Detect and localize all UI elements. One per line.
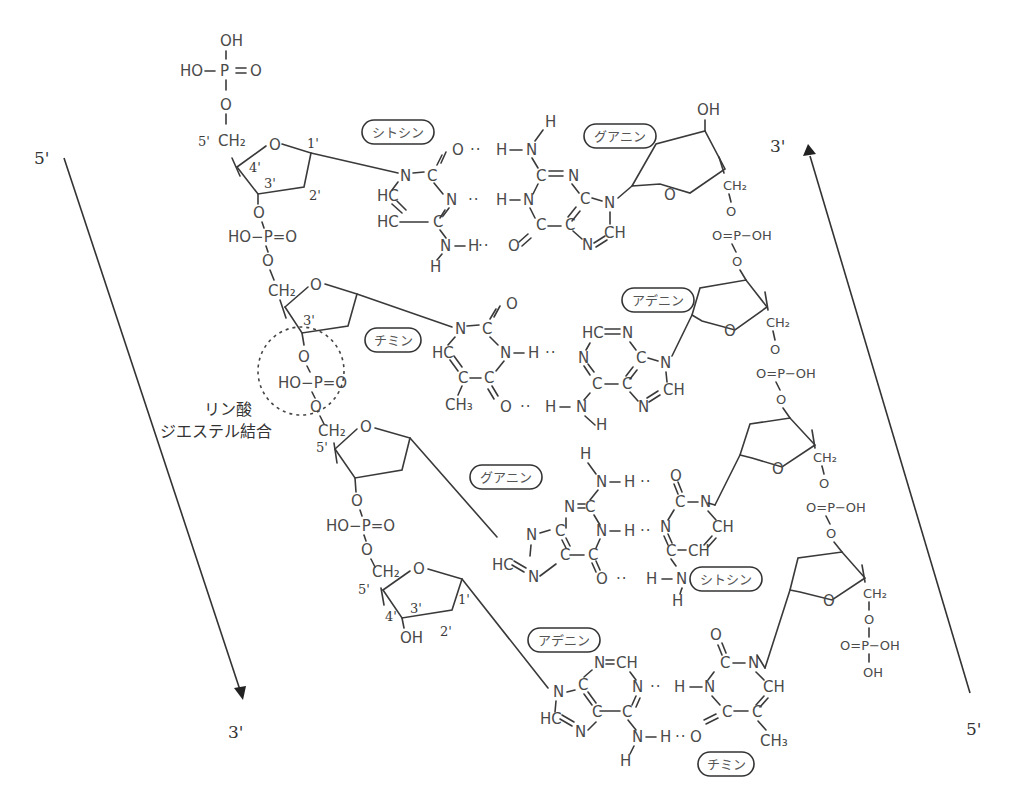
svg-text:··: ·· bbox=[640, 522, 652, 540]
svg-text:O=P−OH: O=P−OH bbox=[840, 638, 900, 653]
svg-text:N: N bbox=[622, 324, 633, 342]
svg-text:CH: CH bbox=[616, 654, 638, 672]
svg-text:N: N bbox=[455, 320, 466, 338]
svg-text:C: C bbox=[580, 190, 590, 208]
svg-text:C: C bbox=[592, 703, 602, 721]
svg-text:O=P−OH: O=P−OH bbox=[712, 228, 772, 243]
svg-text:N: N bbox=[638, 398, 649, 416]
phosphodiester-annotation-line2: ジエステル結合 bbox=[160, 422, 272, 441]
right-sugar-3: O CH₂ O O=P−OH O bbox=[715, 418, 866, 552]
svg-text:C: C bbox=[555, 522, 565, 540]
svg-text:グアニン: グアニン bbox=[594, 129, 646, 144]
svg-text:C: C bbox=[592, 375, 602, 393]
svg-text:C: C bbox=[458, 369, 468, 387]
svg-text:HO−P=O: HO−P=O bbox=[326, 517, 395, 535]
svg-text:C: C bbox=[675, 493, 685, 511]
svg-text:アデニン: アデニン bbox=[538, 633, 590, 648]
svg-text:··: ·· bbox=[520, 398, 532, 416]
svg-text:CH₂: CH₂ bbox=[218, 132, 246, 150]
svg-text:N: N bbox=[582, 236, 593, 254]
svg-text:O: O bbox=[826, 526, 836, 541]
svg-text:H: H bbox=[496, 191, 507, 209]
svg-text:··: ·· bbox=[650, 678, 662, 696]
right-strand-5prime-label: 5' bbox=[966, 719, 982, 739]
svg-text:C: C bbox=[720, 654, 730, 672]
svg-text:C: C bbox=[484, 369, 494, 387]
svg-text:O: O bbox=[726, 204, 736, 219]
svg-text:O: O bbox=[776, 392, 786, 407]
svg-text:N: N bbox=[528, 568, 539, 586]
svg-text:CH₃: CH₃ bbox=[760, 732, 788, 750]
svg-text:C: C bbox=[722, 703, 732, 721]
base-pair-4: アデニン N C N CH N ·· C C HC N N H ·· H H N bbox=[528, 626, 788, 776]
svg-text:C: C bbox=[482, 320, 492, 338]
svg-text:O: O bbox=[864, 612, 874, 627]
svg-text:N: N bbox=[676, 570, 687, 588]
svg-text:OH: OH bbox=[400, 629, 423, 647]
svg-text:O: O bbox=[664, 186, 676, 204]
svg-text:O: O bbox=[269, 136, 281, 154]
svg-text:CH: CH bbox=[712, 518, 734, 536]
phosphodiester-bond-highlight: O HO−P=O O bbox=[258, 327, 347, 424]
svg-text:N: N bbox=[700, 493, 711, 511]
svg-text:CH₂: CH₂ bbox=[766, 315, 790, 330]
svg-text:O: O bbox=[262, 252, 274, 270]
svg-text:3': 3' bbox=[410, 601, 422, 616]
right-strand-3prime-label: 3' bbox=[770, 136, 786, 156]
svg-text:O: O bbox=[253, 204, 265, 222]
svg-text:H: H bbox=[674, 678, 685, 696]
right-sugar-2: O CH₂ O O=P−OH O bbox=[692, 280, 816, 418]
dna-double-strand-diagram: 5' 3' 3' 5' OH HO P O O 5' CH₂ O 4' 3' 1… bbox=[0, 0, 1010, 797]
svg-text:5': 5' bbox=[358, 582, 370, 597]
svg-text:HC: HC bbox=[377, 213, 399, 231]
svg-text:4': 4' bbox=[385, 609, 397, 624]
svg-text:C: C bbox=[536, 167, 546, 185]
svg-text:4': 4' bbox=[249, 160, 261, 175]
svg-text:N: N bbox=[526, 141, 537, 159]
svg-text:CH: CH bbox=[604, 224, 626, 242]
svg-text:H: H bbox=[430, 258, 441, 276]
svg-text:N: N bbox=[660, 354, 671, 372]
terminal-phosphate-top-left: OH HO P O O bbox=[180, 32, 262, 124]
svg-text:HO−P=O: HO−P=O bbox=[278, 374, 347, 392]
left-sugar-4: CH₂ 5' O 4' 3' 1' 2' OH bbox=[358, 560, 548, 688]
svg-text:HC: HC bbox=[377, 187, 399, 205]
svg-text:5': 5' bbox=[316, 440, 328, 455]
svg-text:HC: HC bbox=[492, 556, 514, 574]
svg-text:N: N bbox=[632, 678, 643, 696]
svg-text:OH: OH bbox=[697, 101, 720, 119]
svg-text:H: H bbox=[580, 445, 591, 463]
svg-text:N: N bbox=[526, 526, 537, 544]
svg-text:O: O bbox=[298, 348, 310, 366]
svg-text:O: O bbox=[506, 295, 518, 313]
svg-text:N: N bbox=[604, 194, 615, 212]
svg-text:CH₂: CH₂ bbox=[372, 563, 400, 581]
svg-text:H: H bbox=[545, 113, 556, 131]
svg-text:O: O bbox=[690, 728, 702, 746]
svg-text:CH₂: CH₂ bbox=[723, 178, 747, 193]
left-strand-3prime-label: 3' bbox=[228, 722, 244, 742]
svg-text:OH: OH bbox=[863, 665, 883, 680]
svg-text:O: O bbox=[361, 541, 373, 559]
svg-text:HC: HC bbox=[582, 324, 604, 342]
svg-text:C: C bbox=[636, 349, 646, 367]
svg-text:O: O bbox=[351, 492, 363, 510]
svg-text:HC: HC bbox=[540, 710, 562, 728]
svg-text:C: C bbox=[752, 703, 762, 721]
svg-text:C: C bbox=[585, 498, 595, 516]
svg-text:N: N bbox=[704, 678, 715, 696]
svg-text:3': 3' bbox=[264, 176, 276, 191]
svg-text:O: O bbox=[310, 276, 322, 294]
svg-text:N: N bbox=[596, 522, 607, 540]
svg-text:チミン: チミン bbox=[374, 333, 413, 348]
svg-text:N: N bbox=[553, 683, 564, 701]
svg-text:O: O bbox=[220, 96, 232, 114]
svg-text:··: ·· bbox=[616, 570, 628, 588]
svg-text:2': 2' bbox=[309, 188, 321, 203]
right-strand-direction-arrow bbox=[803, 144, 970, 693]
svg-text:N: N bbox=[568, 167, 579, 185]
svg-text:CH: CH bbox=[763, 678, 785, 696]
right-sugar-4: O CH₂ O O=P−OH OH bbox=[765, 552, 900, 680]
svg-text:アデニン: アデニン bbox=[632, 293, 684, 308]
svg-text:N: N bbox=[575, 723, 586, 741]
